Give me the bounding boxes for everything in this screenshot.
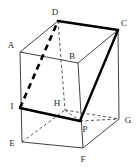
vertex-label-F: F	[80, 155, 85, 164]
edge-B-F	[78, 63, 83, 148]
edge-P-G	[80, 119, 119, 121]
edge-E-F	[22, 142, 83, 148]
vertex-label-B: B	[69, 52, 75, 61]
vertex-label-E: E	[9, 139, 15, 148]
vertex-label-I: I	[11, 102, 14, 111]
vertex-label-H: H	[54, 99, 61, 108]
edge-E-H	[22, 110, 65, 142]
geometry-figure: A B C D E F G H I P	[0, 0, 138, 167]
edge-H-G	[65, 110, 119, 119]
vertex-label-D: D	[52, 8, 59, 17]
edge-F-G	[83, 119, 119, 148]
vertex-label-P: P	[82, 125, 87, 134]
prism-diagram-svg	[0, 0, 138, 167]
vertex-label-A: A	[8, 41, 15, 50]
edge-I-D	[20, 21, 58, 108]
vertex-label-G: G	[125, 116, 132, 125]
edge-P-C	[80, 30, 118, 121]
edge-D-C	[58, 21, 118, 30]
edge-A-E	[20, 52, 22, 142]
vertex-label-C: C	[121, 19, 127, 28]
edge-C-G	[118, 30, 119, 119]
